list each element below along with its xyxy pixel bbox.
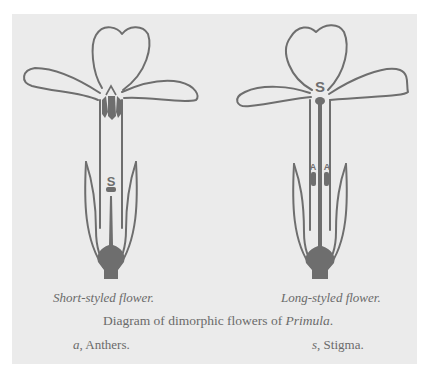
- left-petal: [237, 87, 311, 106]
- legend-stigma: s, Stigma.: [312, 337, 364, 353]
- ovary: [97, 196, 124, 279]
- anther: [102, 96, 108, 118]
- anther-label: A: [310, 162, 317, 172]
- caption-short-styled: Short-styled flower.: [53, 290, 154, 306]
- legend-text-a: , Anthers.: [80, 337, 130, 352]
- figure-title: Diagram of dimorphic flowers of Primula.: [103, 313, 333, 329]
- legend-anthers: a, Anthers.: [73, 337, 130, 353]
- anther: [108, 96, 116, 120]
- anther: [324, 172, 329, 186]
- legend-text-s: , Stigma.: [317, 337, 364, 352]
- title-genus: Primula: [286, 313, 330, 328]
- anther-label: A: [324, 162, 331, 172]
- left-petal: [24, 68, 100, 100]
- stigma-label: S: [107, 174, 116, 189]
- style: [318, 104, 322, 254]
- anther: [311, 172, 316, 186]
- ovary: [306, 246, 335, 279]
- long-styled-flower: [237, 25, 408, 268]
- right-petal: [122, 81, 197, 101]
- anther: [116, 96, 121, 118]
- anther-apex: [106, 86, 116, 95]
- title-text: Diagram of dimorphic flowers of: [103, 313, 286, 328]
- top-petal: [93, 27, 150, 90]
- title-suffix: .: [330, 313, 333, 328]
- stigma-label: S: [315, 78, 325, 95]
- stigma: [315, 97, 325, 105]
- caption-long-styled: Long-styled flower.: [281, 290, 381, 306]
